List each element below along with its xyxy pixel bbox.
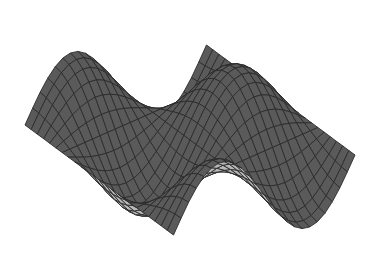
surface-plot bbox=[0, 0, 377, 264]
surface-mesh bbox=[25, 45, 355, 235]
